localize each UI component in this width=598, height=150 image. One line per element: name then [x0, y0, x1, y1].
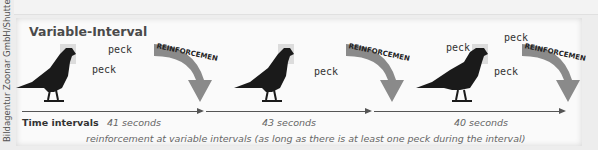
interval-label: 40 seconds: [454, 117, 508, 128]
pigeon-icon: [232, 40, 318, 104]
pigeon-icon: [14, 40, 100, 104]
time-axis-segment: [374, 111, 564, 112]
caption: reinforcement at variable intervals (as …: [86, 133, 525, 144]
time-axis-segment: [206, 111, 370, 112]
interval-label: 41 seconds: [107, 117, 161, 128]
peck-label: peck: [446, 42, 470, 53]
interval-label: 43 seconds: [262, 117, 316, 128]
peck-label: peck: [314, 66, 338, 77]
reinforcement-arrow-icon: REINFORCEMENT: [342, 40, 410, 106]
reinforcement-arrow-icon: REINFORCEMENT: [518, 40, 586, 106]
peck-label: peck: [494, 66, 518, 77]
photo-credit: Bildagentur Zoonar GmbH/Shutterstock: [2, 2, 14, 142]
peck-label: peck: [92, 64, 116, 75]
time-intervals-label: Time intervals: [22, 117, 99, 128]
reinforcement-arrow-icon: REINFORCEMENT: [150, 40, 218, 106]
diagram-title: Variable-Interval: [29, 24, 147, 39]
top-band: [14, 0, 598, 15]
peck-label: peck: [108, 44, 132, 55]
time-axis-segment: [22, 111, 202, 112]
